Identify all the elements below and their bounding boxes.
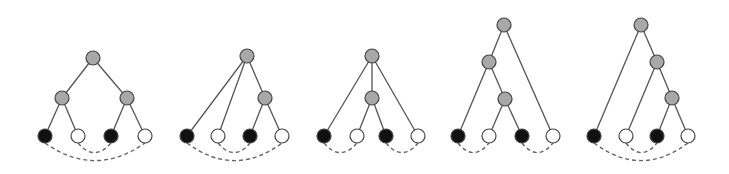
black-leaf-node [587,129,601,143]
white-leaf-node [71,129,85,143]
dashed-arc [218,143,250,153]
black-leaf-node [38,129,52,143]
white-leaf-node [681,129,695,143]
tree-diagram-figure [0,0,729,174]
tree-edge [504,25,553,136]
internal-node [240,49,254,63]
internal-node [86,51,100,65]
internal-node [650,55,664,69]
white-leaf-node [275,129,289,143]
white-leaf-node [546,129,560,143]
internal-node [55,91,69,105]
black-leaf-node [650,129,664,143]
internal-node [120,91,134,105]
internal-node [482,55,496,69]
internal-node [634,18,648,32]
dashed-arc [626,143,657,153]
black-leaf-node [317,129,331,143]
white-leaf-node [138,129,152,143]
internal-node [365,49,379,63]
tree-5 [587,18,695,161]
dashed-arc [78,143,111,153]
dashed-arc [324,143,357,153]
dashed-arc [187,143,282,161]
tree-edge [187,56,247,136]
white-leaf-node [411,129,425,143]
internal-node [665,91,679,105]
tree-edge [93,58,127,98]
tree-1 [38,51,152,161]
tree-edge [458,62,489,136]
black-leaf-node [451,129,465,143]
internal-node [498,92,512,106]
white-leaf-node [482,129,496,143]
tree-edge [594,25,641,136]
black-leaf-node [379,129,393,143]
white-leaf-node [350,129,364,143]
dashed-arc [594,143,688,161]
internal-node [258,91,272,105]
black-leaf-node [180,129,194,143]
internal-node [365,91,379,105]
dashed-arc [386,143,418,153]
dashed-arc [522,143,553,153]
tree-3 [317,49,425,153]
white-leaf-node [211,129,225,143]
tree-edge [626,62,657,136]
trees-group [38,18,695,161]
white-leaf-node [619,129,633,143]
black-leaf-node [515,129,529,143]
black-leaf-node [243,129,257,143]
black-leaf-node [104,129,118,143]
internal-node [497,18,511,32]
tree-edge [218,56,247,136]
tree-4 [451,18,560,153]
dashed-arc [458,143,489,153]
dashed-arc [45,143,145,161]
tree-2 [180,49,289,161]
